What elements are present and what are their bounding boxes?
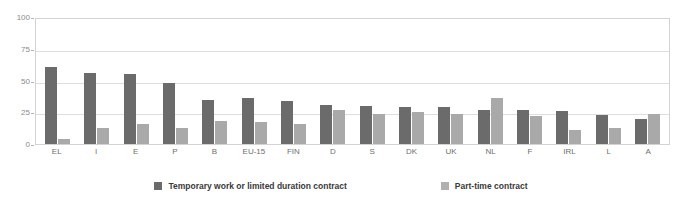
bar bbox=[202, 100, 214, 144]
bar-group bbox=[431, 19, 470, 144]
bar bbox=[373, 114, 385, 145]
bar bbox=[281, 101, 293, 144]
x-axis-tick-label: B bbox=[195, 147, 234, 157]
y-axis-tick-label: 0 bbox=[6, 141, 30, 149]
bar bbox=[478, 110, 490, 144]
plot-area-wrapper: 0255075100 ELIEPBEU-15FINDSDKUKNLFIRLLA bbox=[0, 0, 682, 170]
bar-chart: 0255075100 ELIEPBEU-15FINDSDKUKNLFIRLLA … bbox=[0, 0, 682, 211]
bar-group bbox=[549, 19, 588, 144]
bar bbox=[648, 114, 660, 145]
bar bbox=[517, 110, 529, 144]
y-axis-tick-mark bbox=[31, 18, 34, 19]
y-axis-tick-label: 100 bbox=[6, 14, 30, 22]
x-axis-tick-label: FIN bbox=[274, 147, 313, 157]
y-axis-tick-mark bbox=[31, 145, 34, 146]
legend-swatch-icon bbox=[154, 182, 162, 190]
y-axis: 0255075100 bbox=[6, 12, 34, 145]
bar-group bbox=[510, 19, 549, 144]
bar bbox=[242, 98, 254, 144]
bar-group bbox=[588, 19, 627, 144]
bar-group bbox=[353, 19, 392, 144]
x-axis-tick-label: EU-15 bbox=[234, 147, 273, 157]
bar bbox=[97, 128, 109, 145]
x-axis-tick-label: S bbox=[353, 147, 392, 157]
bar bbox=[412, 112, 424, 144]
bar bbox=[360, 106, 372, 144]
legend-item: Temporary work or limited duration contr… bbox=[154, 181, 346, 191]
bar bbox=[137, 124, 149, 144]
bar bbox=[84, 73, 96, 144]
bar bbox=[609, 128, 621, 145]
bar bbox=[569, 130, 581, 144]
bar-group bbox=[77, 19, 116, 144]
bar-group bbox=[274, 19, 313, 144]
legend-item: Part-time contract bbox=[441, 181, 528, 191]
bar bbox=[333, 110, 345, 144]
bars-layer bbox=[36, 19, 669, 144]
bar bbox=[215, 121, 227, 144]
bar bbox=[596, 115, 608, 144]
x-axis-tick-label: NL bbox=[471, 147, 510, 157]
bar bbox=[438, 107, 450, 144]
bar-group bbox=[156, 19, 195, 144]
legend-label: Part-time contract bbox=[455, 181, 528, 191]
x-axis-tick-label: P bbox=[155, 147, 194, 157]
bar-group bbox=[470, 19, 509, 144]
bar bbox=[294, 124, 306, 144]
bar-group bbox=[195, 19, 234, 144]
legend-swatch-icon bbox=[441, 182, 449, 190]
x-axis: ELIEPBEU-15FINDSDKUKNLFIRLLA bbox=[35, 147, 670, 157]
bar-group bbox=[628, 19, 667, 144]
x-axis-tick-label: EL bbox=[37, 147, 76, 157]
legend-label: Temporary work or limited duration contr… bbox=[168, 181, 346, 191]
bar-group bbox=[117, 19, 156, 144]
bar bbox=[58, 139, 70, 144]
y-axis-tick-mark bbox=[31, 50, 34, 51]
y-axis-tick-mark bbox=[31, 113, 34, 114]
y-axis-tick-label: 50 bbox=[6, 78, 30, 86]
x-axis-tick-label: F bbox=[510, 147, 549, 157]
bar bbox=[451, 114, 463, 145]
bar-group bbox=[313, 19, 352, 144]
bar bbox=[45, 67, 57, 145]
bar bbox=[163, 83, 175, 144]
bar-group bbox=[235, 19, 274, 144]
x-axis-tick-label: E bbox=[116, 147, 155, 157]
x-axis-tick-label: L bbox=[589, 147, 628, 157]
x-axis-tick-label: IRL bbox=[550, 147, 589, 157]
y-axis-tick-label: 25 bbox=[6, 109, 30, 117]
bar-group bbox=[38, 19, 77, 144]
chart-legend: Temporary work or limited duration contr… bbox=[0, 181, 682, 191]
bar bbox=[176, 128, 188, 145]
bar bbox=[530, 116, 542, 144]
y-axis-tick-mark bbox=[31, 82, 34, 83]
bar bbox=[635, 119, 647, 144]
bar bbox=[556, 111, 568, 144]
x-axis-tick-label: DK bbox=[392, 147, 431, 157]
bar-group bbox=[392, 19, 431, 144]
plot-area bbox=[35, 18, 670, 145]
y-axis-tick-label: 75 bbox=[6, 46, 30, 54]
x-axis-tick-label: I bbox=[76, 147, 115, 157]
x-axis-tick-label: D bbox=[313, 147, 352, 157]
x-axis-tick-label: A bbox=[629, 147, 668, 157]
bar bbox=[124, 74, 136, 144]
x-axis-tick-label: UK bbox=[431, 147, 470, 157]
bar bbox=[491, 98, 503, 144]
bar bbox=[399, 107, 411, 144]
bar bbox=[255, 122, 267, 144]
bar bbox=[320, 105, 332, 144]
